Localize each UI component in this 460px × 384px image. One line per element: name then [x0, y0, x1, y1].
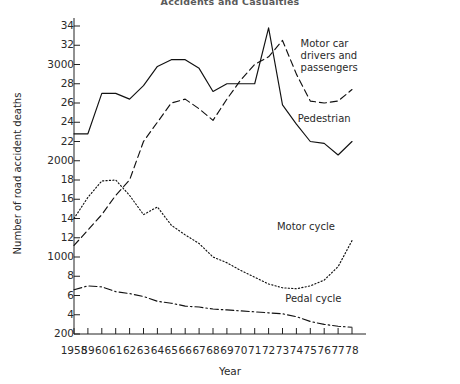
series-line-motor-cycle [74, 180, 352, 289]
series-line-pedal-cycle [74, 286, 352, 327]
plot-area [0, 0, 460, 384]
chart-figure: Accidents and Casualties Number of road … [0, 0, 460, 384]
series-line-pedestrian [74, 28, 352, 155]
axes [74, 18, 366, 334]
series-lines [74, 28, 352, 327]
series-line-motor-car-drivers-and-passengers [74, 40, 352, 245]
